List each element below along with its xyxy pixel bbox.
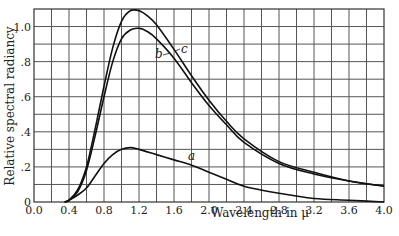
y-tick-label: .8 — [21, 56, 32, 69]
curve-label-c: c — [181, 42, 188, 56]
y-tick-label: .6 — [21, 91, 32, 104]
curves — [65, 10, 384, 202]
y-tick-label: .4 — [21, 126, 32, 139]
x-tick-labels: 0.00.40.81.21.62.02.42.83.23.64.0 — [25, 204, 393, 217]
x-tick-label: 3.6 — [340, 204, 358, 217]
curve-label-a: a — [188, 149, 195, 163]
x-tick-label: 0.4 — [60, 204, 78, 217]
curve-b — [65, 28, 384, 202]
curve-label-b: b — [155, 47, 163, 61]
x-tick-label: 0.8 — [95, 204, 113, 217]
x-axis-label: Wavelength in μ — [211, 206, 309, 220]
curve-c — [65, 10, 384, 202]
y-tick-label: .2 — [21, 161, 32, 174]
curve-label-b-leader — [163, 53, 170, 55]
x-tick-label: 1.6 — [165, 204, 183, 217]
curve-a — [65, 148, 384, 202]
y-axis-label: Relative spectral radiancy — [3, 26, 17, 186]
curve-label-c-leader — [175, 49, 180, 51]
y-tick-label: 0 — [24, 196, 31, 209]
x-tick-label: 1.2 — [130, 204, 148, 217]
x-tick-label: 4.0 — [375, 204, 393, 217]
spectral-radiancy-chart: 0.00.40.81.21.62.02.42.83.23.64.0 0.2.4.… — [0, 0, 399, 236]
